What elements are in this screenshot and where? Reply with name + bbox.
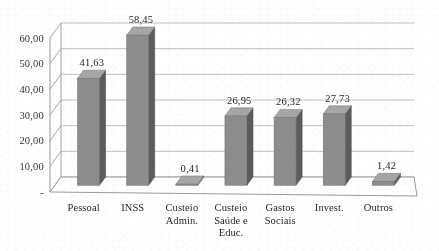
x-axis-category-label: Pessoal [67, 202, 99, 213]
bar-side-face [296, 109, 302, 185]
x-axis-category-label: Outros [364, 202, 393, 213]
y-axis-tick-label: 10,00 [19, 161, 44, 172]
wall-depth-line [50, 74, 61, 89]
bar [78, 70, 106, 185]
bar-front-face [323, 114, 345, 185]
x-axis-category-labels: PessoalINSSCusteioAdmin.CusteioSaúde eEd… [67, 202, 393, 238]
y-axis-tick-label: 60,00 [19, 33, 44, 44]
bar-value-label: 58,45 [129, 14, 154, 25]
x-axis-category-label: Custeio [215, 202, 248, 213]
bar [323, 106, 351, 185]
wall-depth-line [50, 49, 61, 64]
x-axis-category-label: Saúde e [214, 215, 248, 226]
chart-walls [50, 23, 61, 192]
bar-side-face [149, 27, 155, 185]
bar-value-label: 26,95 [227, 95, 252, 106]
bar [225, 108, 253, 185]
x-axis-category-label: Invest. [315, 202, 344, 213]
x-axis-category-label: Gastos [266, 202, 295, 213]
bar-front-face [176, 184, 198, 185]
bar-side-face [247, 108, 253, 185]
y-axis-tick-label: 30,00 [19, 110, 44, 121]
bar-value-label: 1,42 [377, 160, 396, 171]
bar-value-label: 27,73 [325, 93, 350, 104]
y-axis-tick-label: 40,00 [19, 84, 44, 95]
y-axis-tick-labels: -10,0020,0030,0040,0050,0060,00 [19, 33, 44, 198]
bar-side-face [100, 70, 106, 185]
bar-front-face [372, 182, 394, 186]
x-axis-category-label: Educ. [219, 227, 244, 238]
bar-front-face [78, 78, 100, 185]
bar-value-label: 0,41 [181, 163, 200, 174]
bar-value-label: 41,63 [80, 57, 105, 68]
x-axis-category-label: Sociais [265, 215, 296, 226]
bar [274, 109, 302, 185]
bar [127, 27, 155, 185]
bar-chart: -10,0020,0030,0040,0050,0060,00 41,6358,… [0, 0, 439, 251]
bar-front-face [127, 35, 149, 185]
wall-depth-line [50, 126, 61, 141]
x-axis-category-label: Custeio [165, 202, 198, 213]
wall-depth-line [50, 100, 61, 115]
bars [78, 27, 401, 185]
bar-side-face [345, 106, 351, 185]
x-axis-category-label: Admin. [166, 215, 198, 226]
y-axis-tick-label: - [40, 187, 44, 198]
bar-value-label: 26,32 [276, 96, 301, 107]
bar-front-face [225, 116, 247, 185]
wall-depth-line [50, 23, 61, 38]
bar-front-face [274, 118, 296, 186]
x-axis-category-label: INSS [121, 202, 144, 213]
wall-depth-line [50, 151, 61, 166]
y-axis-tick-label: 50,00 [19, 58, 44, 69]
chart-canvas: -10,0020,0030,0040,0050,0060,00 41,6358,… [0, 0, 439, 251]
y-axis-tick-label: 20,00 [19, 135, 44, 146]
